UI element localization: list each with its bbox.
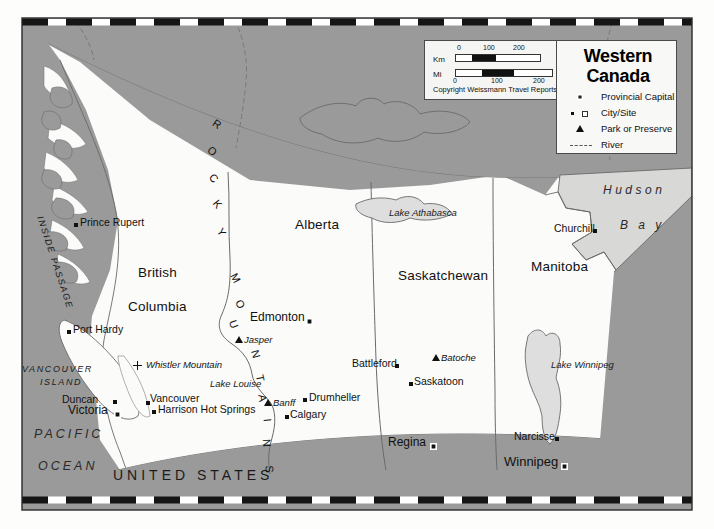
scale-km-tick-100: 100 (483, 44, 495, 51)
scale-mi-bar (455, 69, 553, 77)
lake-label-winnipeg: Lake Winnipeg (551, 360, 614, 370)
scale-mi-tick-100: 100 (491, 77, 503, 84)
marker-victoria[interactable] (114, 411, 121, 418)
province-label-manitoba: Manitoba (531, 260, 588, 274)
scale-km-bar-fill (472, 55, 496, 61)
scale-mi-label: Mi (433, 70, 441, 79)
water-label-ocean: OCEAN (38, 460, 97, 473)
marker-calgary[interactable] (285, 415, 289, 419)
marker-edmonton[interactable] (306, 318, 313, 325)
marker-harrison-hot-springs[interactable] (152, 410, 156, 414)
city-label-drumheller: Drumheller (309, 392, 360, 403)
marker-banff[interactable] (264, 399, 272, 406)
capital-label-edmonton: Edmonton (250, 311, 305, 323)
city-label-churchill: Churchill (554, 223, 595, 234)
city-label-prince-rupert: Prince Rupert (80, 217, 144, 228)
rockies-letter-12: N (261, 439, 274, 448)
marker-port-hardy[interactable] (67, 330, 71, 334)
scale-mi-bar-fill (482, 70, 514, 76)
region-label-vancouver: VANCOUVER (22, 365, 93, 374)
province-label-bc-line2: Columbia (128, 300, 187, 314)
marker-vancouver[interactable] (146, 401, 150, 405)
scale-km-bar (455, 54, 541, 62)
legend-label-city-site: City/Site (601, 107, 636, 118)
city-label-harrison-hot-springs: Harrison Hot Springs (158, 404, 255, 415)
city-label-vancouver: Vancouver (150, 393, 199, 404)
marker-prince-rupert[interactable] (74, 223, 78, 227)
lake-label-louise: Lake Louise (210, 379, 261, 389)
legend-label-river: River (601, 139, 623, 150)
legend-label-park-preserve: Park or Preserve (601, 123, 672, 134)
city-label-saskatoon: Saskatoon (414, 376, 464, 387)
region-label-island: ISLAND (40, 378, 82, 387)
province-label-saskatchewan: Saskatchewan (398, 269, 488, 283)
scale-mi-tick-200: 200 (533, 77, 545, 84)
water-label-hudson: Hudson (603, 184, 665, 196)
city-dot-icon (571, 112, 574, 115)
legend-box: Western Canada Provincial Capital City/S… (556, 40, 677, 154)
rockies-letter-13: S (264, 465, 276, 473)
map-title-line1: Western (584, 46, 653, 66)
capital-label-winnipeg: Winnipeg (504, 455, 558, 468)
city-label-calgary: Calgary (290, 409, 326, 420)
capital-label-regina: Regina (388, 436, 426, 448)
legend-item-park-preserve: Park or Preserve (557, 123, 676, 137)
lake-label-athabasca: Lake Athabasca (389, 208, 457, 218)
marker-narcisse[interactable] (555, 437, 559, 441)
water-label-pacific: PACIFIC (34, 428, 103, 441)
scale-bar-box: Km 0 100 200 Mi 0 100 200 Copyright Weis… (424, 40, 562, 100)
river-line-icon (570, 145, 592, 146)
legend-label-provincial-capital: Provincial Capital (601, 91, 674, 102)
marker-duncan[interactable] (113, 400, 117, 404)
legend-item-provincial-capital: Provincial Capital (557, 91, 676, 105)
province-label-alberta: Alberta (295, 218, 339, 232)
marker-drumheller[interactable] (303, 398, 307, 402)
scale-km-label: Km (433, 55, 445, 64)
legend-item-city-site: City/Site (557, 107, 676, 121)
scale-km-tick-200: 200 (513, 44, 525, 51)
map-title-line2: Canada (586, 66, 649, 86)
map-title: Western Canada (565, 46, 671, 86)
marker-regina[interactable] (430, 443, 437, 450)
water-label-bay: B a y (620, 219, 665, 231)
park-label-batoche: Batoche (441, 353, 476, 363)
capital-label-victoria: Victoria (68, 404, 108, 416)
marker-saskatoon[interactable] (409, 382, 413, 386)
site-square-icon (582, 111, 588, 117)
province-label-bc-line1: British (138, 266, 187, 280)
park-label-banff: Banff (273, 398, 295, 408)
province-label-british-columbia: British Columbia (138, 266, 187, 313)
city-label-port-hardy: Port Hardy (73, 324, 123, 335)
park-label-whistler-mountain: Whistler Mountain (146, 360, 222, 370)
marker-whistler-mountain[interactable] (133, 361, 142, 370)
park-label-jasper: Jasper (244, 335, 273, 345)
provincial-capital-icon (577, 94, 583, 100)
scale-mi-tick-0: 0 (453, 77, 457, 84)
marker-jasper[interactable] (235, 336, 243, 343)
city-label-battleford: Battleford (352, 358, 397, 369)
scale-km-tick-0: 0 (457, 44, 461, 51)
park-triangle-icon (576, 125, 584, 132)
legend-item-river: River (557, 139, 676, 153)
copyright-notice: Copyright Weissmann Travel Reports (433, 85, 557, 94)
western-canada-map: Km 0 100 200 Mi 0 100 200 Copyright Weis… (0, 0, 714, 529)
marker-batoche[interactable] (432, 354, 440, 361)
city-label-narcisse: Narcisse (514, 431, 555, 442)
region-label-united-states: UNITED STATES (113, 468, 273, 482)
marker-winnipeg[interactable] (561, 463, 568, 470)
